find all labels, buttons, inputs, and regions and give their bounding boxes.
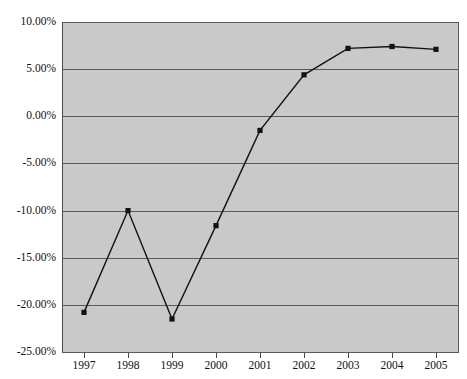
- series-line: [84, 47, 436, 319]
- data-point: [125, 208, 130, 213]
- data-point: [169, 316, 174, 321]
- data-point: [389, 44, 394, 49]
- data-point: [301, 72, 306, 77]
- data-point: [257, 128, 262, 133]
- data-point: [213, 223, 218, 228]
- data-point: [345, 46, 350, 51]
- series-layer: [0, 0, 467, 379]
- data-point: [81, 310, 86, 315]
- data-point: [433, 47, 438, 52]
- chart-figure: 10.00%5.00%0.00%-5.00%-10.00%-15.00%-20.…: [0, 0, 467, 379]
- series-markers: [81, 44, 438, 322]
